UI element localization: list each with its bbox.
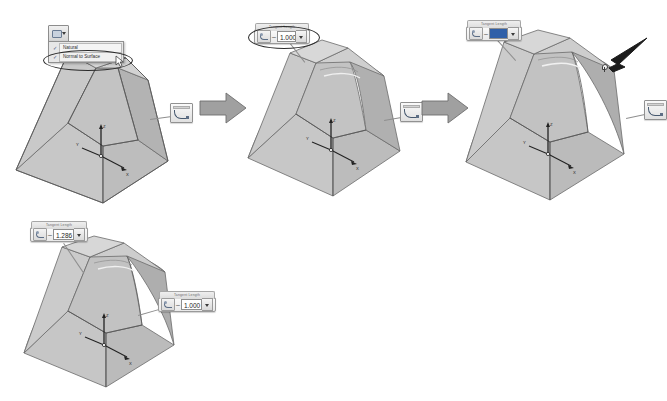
triad-label-z: Z (103, 124, 106, 129)
spinbox-value[interactable]: 1.000 (181, 299, 202, 310)
triad-label-x: X (573, 170, 576, 175)
curvature-display-icon-stage-3[interactable] (644, 100, 667, 120)
tangency-drag-handle[interactable] (602, 64, 608, 72)
chevron-down-icon[interactable] (202, 298, 213, 311)
stage-4-panel: Z X Y Tangent Length – 1.286 Tangent Len… (0, 205, 240, 401)
node-glyph (416, 115, 419, 118)
spinbox-separator: – (484, 30, 488, 37)
spinbox-value[interactable]: 1.286 (53, 229, 74, 240)
tangent-length-icon (469, 27, 483, 40)
tangent-length-spinbox-stage-2[interactable]: Tangent Length – 1.000 (254, 29, 310, 44)
triad-label-y: Y (76, 142, 79, 147)
check-icon: ✓ (51, 45, 59, 51)
tangent-length-spinbox-side-stage-4[interactable]: Tangent Length – 1.000 (158, 297, 216, 312)
spinbox-separator: – (48, 231, 52, 238)
loft-model-stage-4[interactable]: Z X Y (14, 235, 214, 401)
triad-label-z: Z (550, 122, 553, 127)
mouse-pointer-arrow-stage-1 (116, 56, 126, 68)
stage-3-panel: Z X Y Tangent Length – (448, 0, 666, 205)
cursor-check-icon: ✓ (51, 54, 59, 60)
triad-label-z: Z (106, 313, 109, 318)
tangent-length-spinbox-stage-3[interactable]: Tangent Length – (466, 26, 522, 41)
stage-1-panel: Z X Y ✓ Natural ✓ Normal to Surface (0, 0, 215, 200)
icon-title-bar (173, 106, 190, 109)
spinbox-separator: – (272, 33, 276, 40)
triad-label-x: X (126, 172, 129, 177)
triad-label-x: X (129, 361, 132, 366)
triad-label-y: Y (79, 331, 82, 336)
menu-item-normal-to-surface[interactable]: ✓ Normal to Surface (50, 52, 122, 61)
chevron-down-icon[interactable] (296, 30, 307, 43)
curvature-display-icon-stage-1[interactable] (170, 103, 193, 123)
tangent-length-icon (33, 228, 47, 241)
mouse-pointer-arrow-stage-3 (603, 38, 649, 78)
node-glyph (660, 113, 663, 116)
tangent-length-icon (257, 30, 271, 43)
tangency-type-menu[interactable]: ✓ Natural ✓ Normal to Surface (48, 41, 124, 63)
triad-label-x: X (356, 166, 359, 171)
chevron-down-icon[interactable] (74, 228, 85, 241)
tangent-length-spinbox-top-stage-4[interactable]: Tangent Length – 1.286 (30, 227, 88, 242)
spinbox-value[interactable] (489, 28, 508, 39)
chevron-down-icon[interactable] (508, 27, 519, 40)
menu-item-label: Normal to Surface (59, 52, 122, 62)
triad-label-z: Z (333, 118, 336, 123)
triad-label-y: Y (306, 136, 309, 141)
spinbox-value[interactable]: 1.000 (277, 31, 296, 42)
tangent-length-icon (161, 298, 175, 311)
spinbox-separator: – (176, 301, 180, 308)
icon-title-bar (647, 103, 664, 106)
icon-title-bar (403, 105, 420, 108)
stage-2-panel: Z X Y Tangent Length – 1.000 (232, 0, 432, 200)
node-glyph (186, 116, 189, 119)
triad-label-y: Y (523, 140, 526, 145)
curvature-display-icon-stage-2[interactable] (400, 102, 423, 122)
